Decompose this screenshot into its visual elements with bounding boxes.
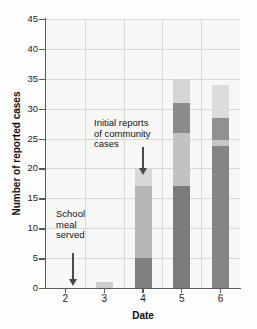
- annotation-arrow-school-meal-served: [69, 253, 78, 286]
- x-axis-label: Date: [46, 310, 240, 321]
- bar-segment-6-1: [212, 146, 229, 288]
- bar-segment-5-2: [173, 133, 190, 187]
- y-tick-25: [39, 139, 46, 140]
- bar-6: [212, 19, 229, 288]
- y-tick-label-40: 40: [10, 44, 38, 54]
- bar-segment-5-4: [173, 79, 190, 103]
- y-tick-45: [39, 19, 46, 20]
- x-tick-label-4: 4: [132, 294, 154, 304]
- chart-figure: 051015202530354045 23456 Schoolmealserve…: [0, 0, 257, 329]
- bar-segment-5-1: [173, 186, 190, 288]
- y-tick-5: [39, 258, 46, 259]
- annotation-school-meal-served: Schoolmealserved: [56, 209, 85, 241]
- x-tick-label-5: 5: [171, 294, 193, 304]
- y-tick-label-5: 5: [10, 253, 38, 263]
- bar-segment-4-2: [135, 186, 152, 258]
- x-tick-label-2: 2: [54, 294, 76, 304]
- gridline-x-1: [85, 19, 86, 288]
- annotation-line: served: [56, 230, 85, 241]
- arrow-head-down-icon: [69, 279, 77, 286]
- y-tick-30: [39, 109, 46, 110]
- x-tick-label-6: 6: [210, 294, 232, 304]
- y-tick-40: [39, 49, 46, 50]
- bar-segment-6-4: [212, 85, 229, 118]
- gridline-x-3: [162, 19, 163, 288]
- y-axis-label: Number of reported cases: [11, 54, 22, 254]
- bar-segment-6-2: [212, 140, 229, 146]
- gridline-x-2: [124, 19, 125, 288]
- y-tick-label-0: 0: [10, 283, 38, 293]
- y-tick-10: [39, 228, 46, 229]
- y-tick-20: [39, 168, 46, 169]
- y-tick-35: [39, 79, 46, 80]
- bar-5: [173, 19, 190, 288]
- annotation-initial-reports-community-cases: Initial reportsof communitycases: [94, 118, 151, 150]
- gridline-x-4: [201, 19, 202, 288]
- bar-segment-3-1: [96, 282, 113, 288]
- bar-segment-5-3: [173, 103, 190, 133]
- y-axis-line: [45, 18, 46, 289]
- arrow-shaft: [72, 253, 75, 279]
- bar-3: [96, 19, 113, 288]
- y-tick-0: [39, 288, 46, 289]
- bar-segment-6-3: [212, 118, 229, 140]
- bar-segment-4-1: [135, 258, 152, 288]
- y-tick-15: [39, 198, 46, 199]
- x-tick-label-3: 3: [93, 294, 115, 304]
- y-tick-label-45: 45: [10, 14, 38, 24]
- arrow-shaft: [142, 147, 145, 168]
- annotation-arrow-initial-reports-community-cases: [139, 147, 148, 175]
- arrow-head-down-icon: [139, 168, 147, 175]
